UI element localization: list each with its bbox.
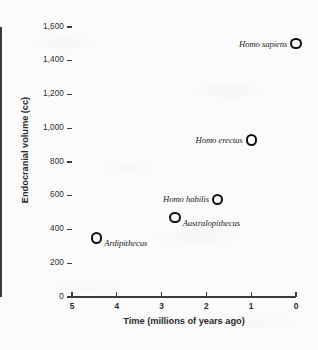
- y-tick-mark: [67, 60, 72, 61]
- y-tick-label: 1,200: [24, 89, 64, 98]
- x-tick-label: 0: [286, 301, 306, 311]
- y-tick-mark: [67, 128, 72, 129]
- y-axis-line: [0, 27, 2, 297]
- x-tick-label: 5: [62, 301, 82, 311]
- y-tick-mark: [67, 94, 72, 95]
- data-point-marker[interactable]: [290, 38, 301, 49]
- y-tick-mark: [67, 229, 72, 230]
- x-tick-label: 3: [152, 301, 172, 311]
- y-tick-label: 800: [24, 157, 64, 166]
- data-point-marker[interactable]: [212, 194, 223, 205]
- y-tick-mark: [67, 161, 72, 162]
- y-tick-label: 200: [24, 258, 64, 267]
- data-point-marker[interactable]: [169, 212, 180, 223]
- x-axis-title: Time (millions of years ago): [72, 316, 296, 326]
- x-tick-mark: [71, 292, 72, 297]
- data-point-marker[interactable]: [246, 134, 257, 145]
- y-tick-mark: [67, 263, 72, 264]
- data-point-label: Australopithecus: [183, 218, 240, 228]
- x-tick-label: 2: [196, 301, 216, 311]
- x-tick-mark: [206, 292, 207, 297]
- x-tick-label: 1: [241, 301, 261, 311]
- x-tick-mark: [161, 292, 162, 297]
- y-tick-label: 1,600: [24, 22, 64, 31]
- y-tick-label: 600: [24, 190, 64, 199]
- x-tick-label: 4: [107, 301, 127, 311]
- data-point-marker[interactable]: [91, 232, 102, 243]
- y-tick-mark: [67, 26, 72, 27]
- x-tick-mark: [116, 292, 117, 297]
- y-tick-label: 1,000: [24, 123, 64, 132]
- x-axis-line: [72, 296, 296, 298]
- chart-figure: 02004006008001,0001,2001,4001,600 543210…: [0, 0, 318, 350]
- data-point-label: Homo erectus: [196, 135, 243, 145]
- data-point-label: Homo sapiens: [239, 39, 287, 49]
- y-axis-title: Endocranial volume (cc): [20, 70, 30, 230]
- y-tick-label: 400: [24, 224, 64, 233]
- data-point-label: Homo habilis: [163, 194, 209, 204]
- y-tick-label: 0: [24, 292, 64, 301]
- x-tick-mark: [251, 292, 252, 297]
- x-tick-mark: [295, 292, 296, 297]
- data-point-label: Ardipithecus: [104, 238, 147, 248]
- y-tick-label: 1,400: [24, 55, 64, 64]
- y-tick-mark: [67, 195, 72, 196]
